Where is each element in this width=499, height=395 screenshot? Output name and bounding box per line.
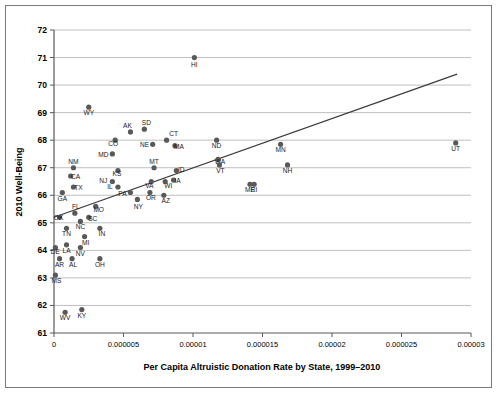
point-label: OK	[54, 214, 64, 221]
x-tick-label: 0	[52, 340, 56, 349]
x-tick-label: 0.00002	[318, 340, 345, 349]
point-label: PA	[118, 190, 127, 197]
point-label: ID	[178, 166, 185, 173]
x-tick-label: 0.000015	[247, 340, 278, 349]
data-point	[142, 127, 147, 132]
point-label: SC	[88, 215, 97, 222]
data-point	[110, 151, 115, 156]
data-point	[151, 165, 156, 170]
point-label: MI	[82, 239, 89, 246]
point-label: GA	[58, 195, 68, 202]
point-label: MD	[98, 151, 108, 158]
y-tick-label: 72	[38, 25, 48, 35]
y-tick-label: 69	[38, 108, 48, 118]
point-label: MN	[275, 146, 285, 153]
y-tick-label: 71	[38, 53, 48, 63]
y-tick-label: 61	[38, 328, 48, 338]
point-label: NM	[68, 158, 78, 165]
point-label: IL	[107, 183, 113, 190]
y-tick-label: 68	[38, 135, 48, 145]
x-tick-label: 0.00001	[179, 340, 206, 349]
point-label: MS	[51, 277, 61, 284]
point-label: NH	[283, 167, 293, 174]
point-label: TX	[74, 184, 83, 191]
point-label: DE	[51, 248, 61, 255]
point-label: AL	[69, 261, 77, 268]
point-label: LA	[62, 247, 71, 254]
y-axis-title: 2010 Well-Being	[14, 148, 24, 217]
point-label: KS	[113, 170, 122, 177]
point-label: VA	[145, 182, 154, 189]
data-point	[135, 197, 140, 202]
point-label: OH	[95, 261, 105, 268]
point-label: VT	[216, 167, 224, 174]
point-label: AK	[123, 122, 132, 129]
point-label: SD	[142, 119, 151, 126]
point-label: TN	[62, 230, 71, 237]
point-label: CA	[71, 173, 81, 180]
data-point	[71, 165, 76, 170]
point-label: AR	[55, 261, 64, 268]
point-label: NV	[76, 250, 86, 257]
point-label: MO	[93, 206, 104, 213]
data-point	[72, 211, 77, 216]
point-label: UT	[451, 145, 460, 152]
point-label: FL	[72, 203, 80, 210]
data-point	[128, 129, 133, 134]
x-tick-label: 0.000005	[108, 340, 139, 349]
x-axis-ticks: 00.0000050.000010.0000150.000020.0000250…	[52, 333, 485, 349]
point-label: NE	[140, 141, 150, 148]
gridlines	[54, 30, 471, 305]
point-label: CO	[108, 140, 118, 147]
y-tick-label: 70	[38, 80, 48, 90]
data-point	[150, 142, 155, 147]
scatter-plot: 616263646566676869707172 00.0000050.0000…	[0, 0, 499, 395]
y-tick-label: 65	[38, 218, 48, 228]
point-label: MA	[174, 143, 184, 150]
y-tick-label: 67	[38, 163, 48, 173]
y-tick-label: 64	[38, 245, 48, 255]
y-tick-label: 62	[38, 300, 48, 310]
x-tick-label: 0.000025	[386, 340, 417, 349]
y-tick-label: 63	[38, 273, 48, 283]
point-label: AZ	[162, 197, 170, 204]
point-label: MT	[149, 158, 159, 165]
point-label: IN	[99, 230, 106, 237]
point-label: RI	[251, 186, 258, 193]
point-label: NY	[134, 203, 144, 210]
x-axis-title: Per Capita Altruistic Donation Rate by S…	[144, 362, 381, 372]
point-label: WI	[164, 182, 172, 189]
point-label: OR	[146, 194, 156, 201]
point-label: WY	[83, 109, 94, 116]
point-label: HI	[191, 61, 198, 68]
point-label: NJ	[99, 177, 107, 184]
data-point	[128, 190, 133, 195]
point-label: NC	[76, 223, 86, 230]
point-label: KY	[77, 312, 86, 319]
point-label: WV	[60, 314, 71, 321]
point-label: CT	[169, 130, 178, 137]
point-label: ND	[212, 142, 222, 149]
point-label: IA	[174, 177, 181, 184]
y-axis-ticks: 616263646566676869707172	[38, 25, 54, 338]
data-point	[192, 55, 197, 60]
y-tick-label: 66	[38, 190, 48, 200]
x-tick-label: 0.00003	[457, 340, 484, 349]
data-point	[164, 138, 169, 143]
